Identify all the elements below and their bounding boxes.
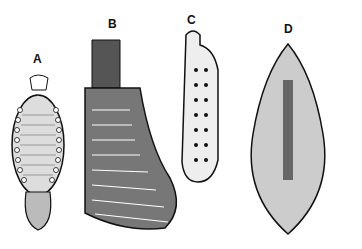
figure: A B C D	[0, 0, 362, 249]
specimen-c	[182, 31, 218, 182]
specimen-a	[12, 75, 64, 230]
panel-label-d: D	[284, 22, 293, 36]
panel-label-a: A	[33, 52, 42, 66]
specimen-d	[251, 44, 325, 234]
specimen-b	[85, 40, 176, 229]
panel-label-c: C	[187, 13, 196, 27]
illustration-canvas	[0, 0, 362, 249]
panel-label-b: B	[108, 17, 117, 31]
